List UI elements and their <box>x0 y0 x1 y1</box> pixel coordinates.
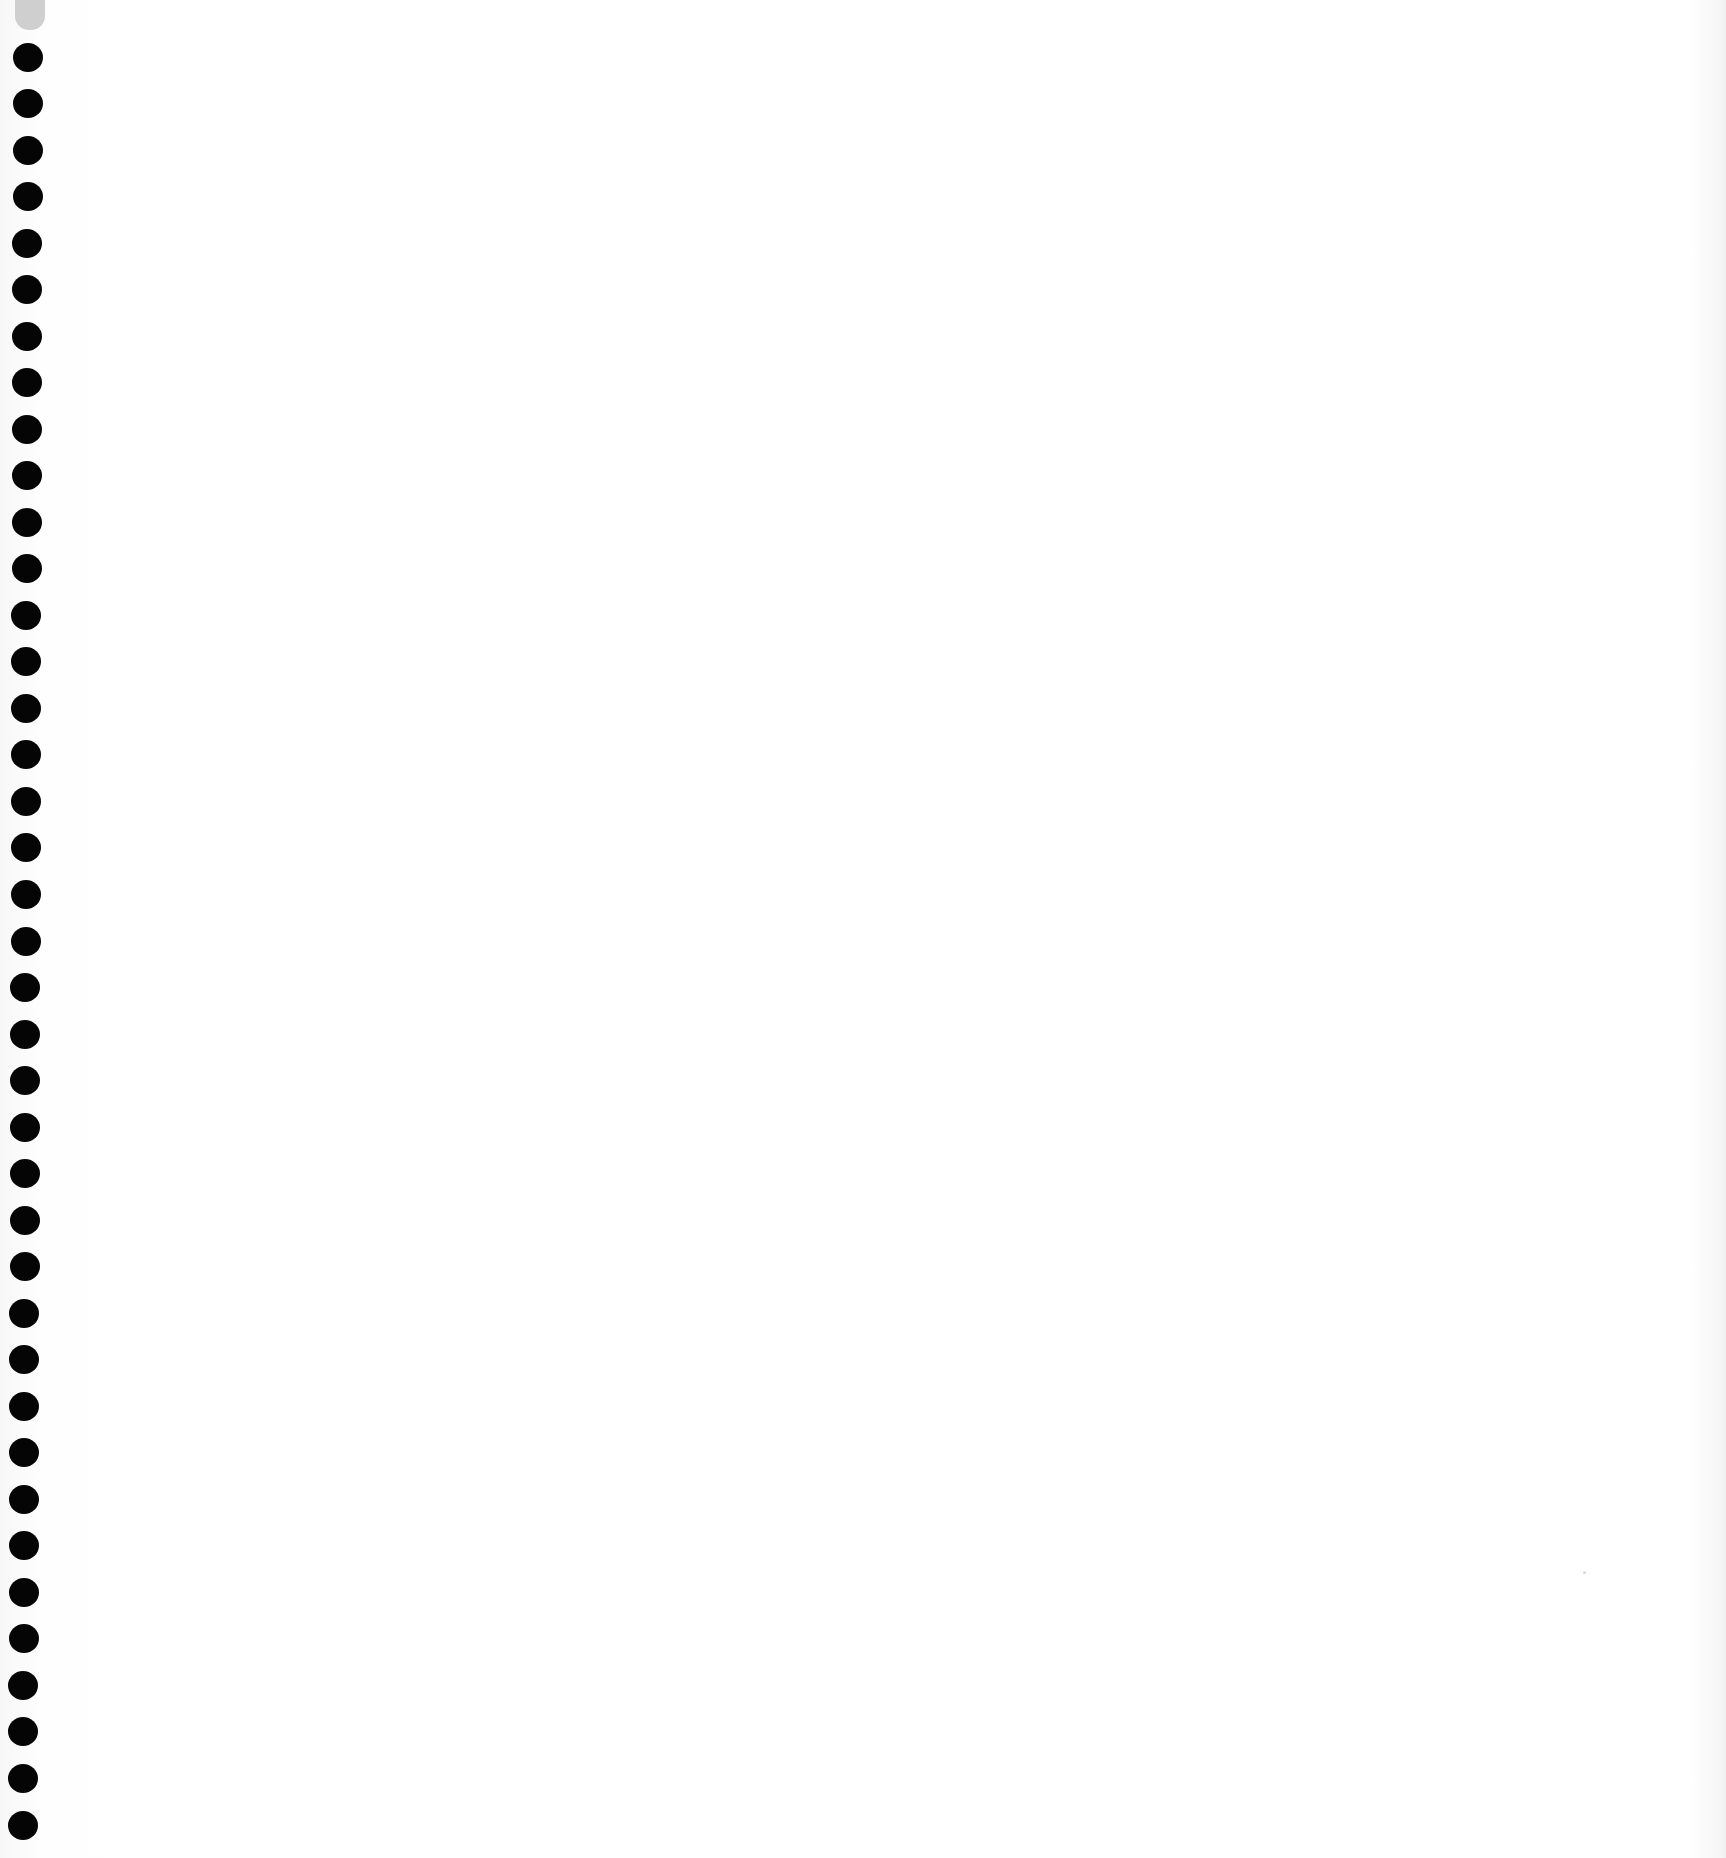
binder-ring-tab <box>15 0 45 30</box>
punched-hole <box>9 1531 39 1560</box>
punched-hole <box>11 833 41 862</box>
paper-speck <box>1583 1571 1586 1574</box>
punched-hole <box>13 43 43 72</box>
punched-hole <box>8 1717 38 1746</box>
punched-hole <box>10 1066 40 1095</box>
punched-hole <box>12 415 42 444</box>
punched-hole <box>12 322 42 351</box>
punched-hole <box>8 1671 38 1700</box>
punched-hole <box>10 1159 40 1188</box>
punched-hole <box>12 461 42 490</box>
punched-hole <box>9 1485 39 1514</box>
punched-hole <box>10 973 40 1002</box>
punched-hole <box>12 275 42 304</box>
punched-hole <box>8 1764 38 1793</box>
punched-hole <box>12 368 42 397</box>
punched-hole <box>10 1252 40 1281</box>
punched-hole <box>9 1345 39 1374</box>
punched-hole <box>10 1113 40 1142</box>
punched-hole <box>9 1438 39 1467</box>
punched-hole <box>11 694 41 723</box>
punched-hole <box>11 927 41 956</box>
punched-hole <box>11 880 41 909</box>
punched-hole <box>12 229 42 258</box>
punched-hole <box>9 1392 39 1421</box>
punched-hole <box>13 182 43 211</box>
punched-hole <box>8 1811 38 1840</box>
punched-hole <box>9 1624 39 1653</box>
punched-hole <box>10 1020 40 1049</box>
punched-hole <box>11 601 41 630</box>
punched-hole <box>10 1206 40 1235</box>
punched-hole <box>11 740 41 769</box>
punched-hole <box>13 89 43 118</box>
punched-hole <box>11 787 41 816</box>
punched-hole <box>11 647 41 676</box>
punched-hole <box>12 554 42 583</box>
punched-hole <box>12 508 42 537</box>
punched-hole <box>9 1299 39 1328</box>
punched-hole <box>9 1578 39 1607</box>
notebook-page <box>0 0 1726 1858</box>
punched-hole <box>13 136 43 165</box>
